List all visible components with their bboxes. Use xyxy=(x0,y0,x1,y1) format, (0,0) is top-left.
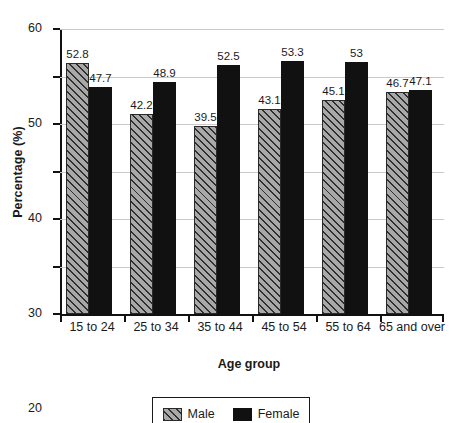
plot-area: 0102030405060 52.847.742.248.939.552.543… xyxy=(60,29,444,314)
bar-male-3 xyxy=(258,109,281,314)
y-axis-tick-label: 30 xyxy=(28,306,42,320)
value-label-female-0: 47.7 xyxy=(89,72,111,84)
bar-male-4 xyxy=(322,100,345,314)
value-label-male-3: 43.1 xyxy=(258,94,280,106)
x-axis-category-label: 45 to 54 xyxy=(261,320,306,334)
x-axis-category-label: 55 to 64 xyxy=(325,320,370,334)
x-axis-title: Age group xyxy=(0,357,454,371)
value-label-female-1: 48.9 xyxy=(153,67,175,79)
bar-male-5 xyxy=(386,92,409,314)
value-label-male-2: 39.5 xyxy=(194,111,216,123)
legend-label-female: Female xyxy=(258,407,300,421)
y-axis-tick-label: 50 xyxy=(28,116,42,130)
legend-swatch-male xyxy=(163,408,182,421)
legend: Male Female xyxy=(152,397,310,423)
y-axis-tick: 0 xyxy=(53,313,60,315)
legend-item-male: Male xyxy=(163,407,215,421)
bar-female-0 xyxy=(89,87,112,314)
legend-swatch-female xyxy=(233,408,252,421)
x-axis-tick xyxy=(60,314,62,322)
x-axis-category-label: 25 to 34 xyxy=(133,320,178,334)
bar-female-1 xyxy=(153,82,176,314)
y-axis-tick: 40 xyxy=(53,123,60,125)
value-label-female-4: 53 xyxy=(350,47,363,59)
legend-item-female: Female xyxy=(233,407,300,421)
x-axis-category-label: 65 and over xyxy=(379,320,445,334)
bar-female-5 xyxy=(409,90,432,314)
bar-male-2 xyxy=(194,126,217,314)
value-label-male-0: 52.8 xyxy=(66,48,88,60)
bar-male-1 xyxy=(130,114,153,314)
y-axis-tick: 20 xyxy=(53,218,60,220)
legend-label-male: Male xyxy=(188,407,215,421)
x-axis-tick xyxy=(316,314,318,322)
bar-chart: Percentage (%) 0102030405060 52.847.742.… xyxy=(0,0,454,423)
value-label-female-3: 53.3 xyxy=(281,46,303,58)
y-axis-tick: 10 xyxy=(53,266,60,268)
x-axis-tick xyxy=(124,314,126,322)
value-label-male-1: 42.2 xyxy=(130,99,152,111)
y-axis-tick: 60 xyxy=(53,28,60,30)
bar-female-3 xyxy=(281,61,304,314)
value-label-female-5: 47.1 xyxy=(409,75,431,87)
x-axis-category-label: 15 to 24 xyxy=(69,320,114,334)
y-axis-tick-label: 20 xyxy=(28,401,42,415)
bar-male-0 xyxy=(66,63,89,314)
x-axis-category-label: 35 to 44 xyxy=(197,320,242,334)
x-axis-tick xyxy=(188,314,190,322)
bar-female-4 xyxy=(345,62,368,314)
value-label-male-4: 45.1 xyxy=(322,85,344,97)
x-axis-tick xyxy=(252,314,254,322)
x-axis-title-text: Age group xyxy=(218,357,281,371)
value-label-female-2: 52.5 xyxy=(217,50,239,62)
bar-female-2 xyxy=(217,65,240,314)
y-axis-tick-label: 60 xyxy=(28,21,42,35)
y-axis-tick: 30 xyxy=(53,171,60,173)
y-axis-title: Percentage (%) xyxy=(11,92,25,252)
gridline xyxy=(60,29,444,30)
y-axis-tick-label: 40 xyxy=(28,211,42,225)
value-label-male-5: 46.7 xyxy=(386,77,408,89)
y-axis-tick: 50 xyxy=(53,76,60,78)
